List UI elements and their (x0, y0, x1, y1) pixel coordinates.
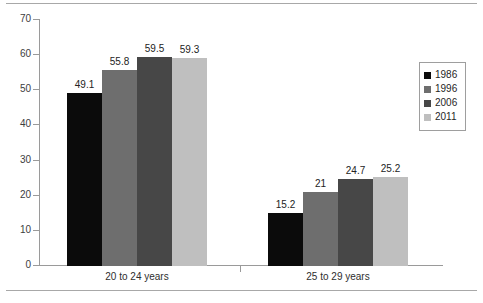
y-axis-tick-label: 30 (3, 155, 31, 165)
figure-bottom-border (6, 290, 477, 291)
bar-value-label: 49.1 (75, 80, 94, 90)
legend-item-label: 2011 (435, 112, 457, 122)
bar-chart-figure: 010203040506070 49.155.859.559.315.22124… (0, 0, 483, 303)
bar-2006-1: 59.5 (137, 57, 172, 266)
bar-2006-2: 24.7 (338, 179, 373, 266)
bar-value-label: 21 (315, 179, 326, 189)
y-axis-tick-label: 20 (3, 190, 31, 200)
y-axis-tick-label: 50 (3, 84, 31, 94)
bar-group: 49.155.859.559.3 (67, 19, 207, 266)
bar-2011-1: 59.3 (172, 58, 207, 266)
bar-1996-2: 21 (303, 192, 338, 266)
y-axis-tick-label: 60 (3, 49, 31, 59)
category-separator-tick (240, 266, 241, 272)
category-label-1: 20 to 24 years (87, 272, 187, 282)
legend-swatch-icon (424, 86, 431, 93)
category-label-2: 25 to 29 years (288, 272, 388, 282)
y-axis-tick-label: 40 (3, 119, 31, 129)
legend-item-2006[interactable]: 2006 (420, 96, 465, 110)
bar-1986-2: 15.2 (268, 213, 303, 266)
legend-item-label: 1986 (435, 70, 457, 80)
bar-1996-1: 55.8 (102, 70, 137, 266)
legend-swatch-icon (424, 100, 431, 107)
legend-swatch-icon (424, 114, 431, 121)
legend-item-1996[interactable]: 1996 (420, 82, 465, 96)
y-axis-tick-label: 10 (3, 225, 31, 235)
legend-item-1986[interactable]: 1986 (420, 68, 465, 82)
legend-item-label: 1996 (435, 84, 457, 94)
plot-area: 49.155.859.559.315.22124.725.2 (39, 19, 417, 266)
legend-item-label: 2006 (435, 98, 457, 108)
y-axis-tick-label: 70 (3, 14, 31, 24)
chart-legend: 1986199620062011 (419, 62, 466, 131)
bar-value-label: 24.7 (346, 166, 365, 176)
legend-swatch-icon (424, 72, 431, 79)
legend-item-2011[interactable]: 2011 (420, 110, 465, 124)
bar-value-label: 55.8 (110, 57, 129, 67)
y-axis-tick-label: 0 (3, 260, 31, 270)
bar-value-label: 15.2 (276, 200, 295, 210)
bar-2011-2: 25.2 (373, 177, 408, 266)
bar-1986-1: 49.1 (67, 93, 102, 266)
bar-value-label: 25.2 (381, 164, 400, 174)
bar-group: 15.22124.725.2 (268, 19, 408, 266)
bar-value-label: 59.3 (180, 45, 199, 55)
figure-top-border (6, 3, 477, 4)
bar-value-label: 59.5 (145, 44, 164, 54)
